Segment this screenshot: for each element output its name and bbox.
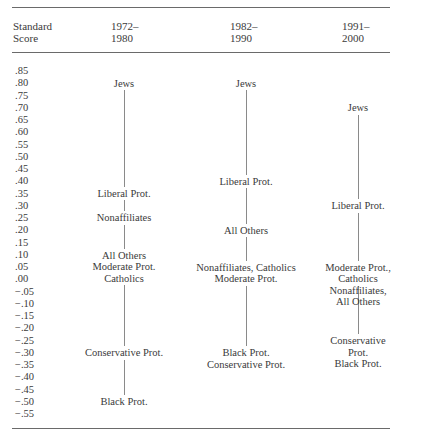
scale-tick: .55	[15, 139, 28, 151]
scale-tick: .30	[15, 200, 28, 212]
group-label: All Others Moderate Prot. Catholics	[93, 250, 156, 285]
top-rule	[12, 7, 390, 8]
scale-tick: −.40	[15, 371, 34, 383]
scale-tick: −.45	[15, 384, 34, 396]
group-label: Jews	[236, 78, 256, 90]
scale-tick: −.25	[15, 335, 34, 347]
group-label: All Others	[224, 225, 268, 237]
connector-line	[124, 90, 125, 187]
scale-tick: .60	[15, 126, 28, 138]
group-label: Nonaffiliates, Catholics Moderate Prot.	[196, 262, 296, 285]
connector-line	[246, 237, 247, 261]
group-label: Liberal Prot.	[219, 176, 272, 188]
scale-tick: .25	[15, 212, 28, 224]
scale-tick: −.10	[15, 298, 34, 310]
group-label: Nonaffiliates	[97, 212, 152, 224]
scale-tick: .85	[15, 65, 28, 77]
header-score-label: Standard Score	[13, 20, 52, 44]
scale-tick: .05	[15, 261, 28, 273]
connector-line	[358, 213, 359, 261]
scale-tick: −.55	[15, 408, 34, 420]
header-period-3: 1991– 2000	[342, 20, 370, 44]
scale-tick: .00	[15, 273, 28, 285]
connector-line	[124, 285, 125, 346]
group-label: Moderate Prot., Catholics Nonaffiliates,…	[325, 262, 391, 308]
header-rule	[12, 52, 390, 53]
scale-tick: .65	[15, 114, 28, 126]
scale-tick: −.05	[15, 286, 34, 298]
group-label: Conservative Prot.	[85, 347, 163, 359]
group-label: Liberal Prot.	[331, 200, 384, 212]
scale-tick: −.50	[15, 396, 34, 408]
connector-line	[246, 188, 247, 224]
scale-tick: .50	[15, 151, 28, 163]
scale-tick: −.35	[15, 359, 34, 371]
connector-line	[124, 200, 125, 211]
scale-tick: .75	[15, 90, 28, 102]
scale-tick: −.20	[15, 322, 34, 334]
scale-tick: .40	[15, 175, 28, 187]
connector-line	[358, 115, 359, 200]
scale-tick: .80	[15, 77, 28, 89]
scale-tick: .15	[15, 237, 28, 249]
scale-tick: .35	[15, 188, 28, 200]
scale-tick: −.15	[15, 310, 34, 322]
group-label: Jews	[348, 102, 368, 114]
group-label: Liberal Prot.	[97, 188, 150, 200]
header-period-2: 1982– 1990	[230, 20, 258, 44]
header-period-1: 1972– 1980	[111, 20, 139, 44]
scale-tick: .45	[15, 163, 28, 175]
group-label: Jews	[114, 78, 134, 90]
connector-line	[246, 90, 247, 175]
scale-tick: −.30	[15, 347, 34, 359]
connector-line	[124, 360, 125, 396]
bottom-rule	[12, 428, 390, 429]
group-label: Black Prot. Conservative Prot.	[207, 347, 285, 370]
group-label: Black Prot.	[100, 396, 147, 408]
connector-line	[246, 286, 247, 347]
group-label: Conservative Prot. Black Prot.	[325, 335, 391, 370]
scale-tick: .20	[15, 224, 28, 236]
scale-tick: .10	[15, 249, 28, 261]
scale-tick: .70	[15, 102, 28, 114]
connector-line	[124, 225, 125, 249]
